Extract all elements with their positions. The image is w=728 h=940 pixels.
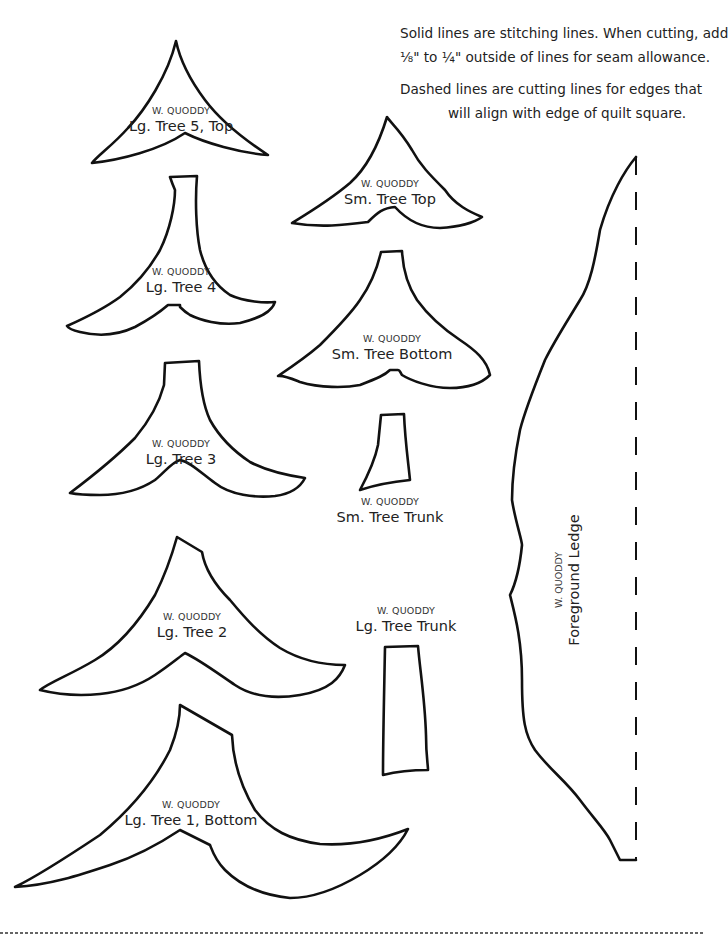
label-sm-tree-bottom: W. QUODDY Sm. Tree Bottom <box>332 333 453 363</box>
brand-label: W. QUODDY <box>344 178 436 190</box>
instruction-stitching: Solid lines are stitching lines. When cu… <box>400 21 728 69</box>
lg-tree-trunk-outline <box>383 646 428 775</box>
pattern-page: Solid lines are stitching lines. When cu… <box>0 0 728 940</box>
lg-tree-4-outline <box>67 176 275 335</box>
piece-name: Sm. Tree Trunk <box>337 508 444 526</box>
piece-name: Lg. Tree 3 <box>146 450 217 468</box>
piece-name: Sm. Tree Bottom <box>332 345 453 363</box>
piece-name: Lg. Tree 2 <box>157 623 228 641</box>
brand-label: W. QUODDY <box>356 605 457 617</box>
pattern-pieces-canvas <box>0 0 728 940</box>
sm-tree-bottom-outline <box>278 251 490 388</box>
brand-label: W. QUODDY <box>146 266 217 278</box>
piece-name: Lg. Tree 4 <box>146 278 217 296</box>
label-lg-tree-4: W. QUODDY Lg. Tree 4 <box>146 266 217 296</box>
instruction-cutting: Dashed lines are cutting lines for edges… <box>400 77 728 125</box>
instruction-line-3: Dashed lines are cutting lines for edges… <box>400 81 702 97</box>
piece-name: Lg. Tree Trunk <box>356 617 457 635</box>
label-sm-tree-trunk: W. QUODDY Sm. Tree Trunk <box>337 496 444 526</box>
brand-label: W. QUODDY <box>337 496 444 508</box>
foreground-ledge-outline <box>510 157 636 860</box>
instruction-line-4: will align with edge of quilt square. <box>400 105 686 121</box>
label-sm-tree-top: W. QUODDY Sm. Tree Top <box>344 178 436 208</box>
lg-tree-5-top-outline <box>92 41 268 163</box>
piece-name: Lg. Tree 5, Top <box>129 117 233 135</box>
brand-label: W. QUODDY <box>157 611 228 623</box>
piece-name: Lg. Tree 1, Bottom <box>125 811 258 829</box>
label-lg-tree-trunk: W. QUODDY Lg. Tree Trunk <box>356 605 457 635</box>
label-lg-tree-2: W. QUODDY Lg. Tree 2 <box>157 611 228 641</box>
label-lg-tree-5: W. QUODDY Lg. Tree 5, Top <box>129 105 233 135</box>
lg-tree-3-outline <box>70 361 305 497</box>
sm-tree-top-outline <box>292 117 482 228</box>
piece-name: Foreground Ledge <box>565 514 583 645</box>
label-lg-tree-3: W. QUODDY Lg. Tree 3 <box>146 438 217 468</box>
piece-name: Sm. Tree Top <box>344 190 436 208</box>
label-lg-tree-1: W. QUODDY Lg. Tree 1, Bottom <box>125 799 258 829</box>
label-foreground-ledge: W. QUODDY Foreground Ledge <box>553 514 583 645</box>
instruction-line-2: ⅛" to ¼" outside of lines for seam allow… <box>400 49 710 65</box>
brand-label: W. QUODDY <box>146 438 217 450</box>
instruction-line-1: Solid lines are stitching lines. When cu… <box>400 25 728 41</box>
brand-label: W. QUODDY <box>553 514 565 645</box>
brand-label: W. QUODDY <box>129 105 233 117</box>
brand-label: W. QUODDY <box>332 333 453 345</box>
brand-label: W. QUODDY <box>125 799 258 811</box>
sm-tree-trunk-outline <box>360 414 410 490</box>
instructions: Solid lines are stitching lines. When cu… <box>400 21 728 125</box>
